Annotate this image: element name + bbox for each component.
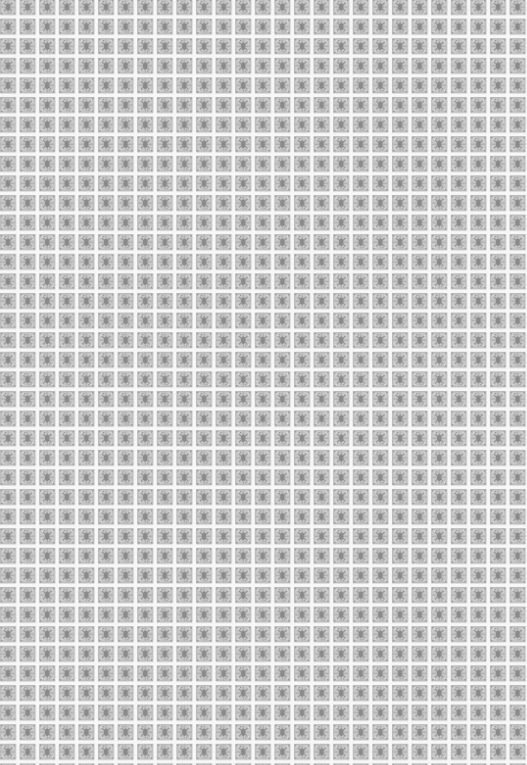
tile-grid: [0, 0, 527, 765]
tile-pattern-canvas: [0, 0, 527, 765]
tiled-texture-background: [0, 0, 527, 765]
